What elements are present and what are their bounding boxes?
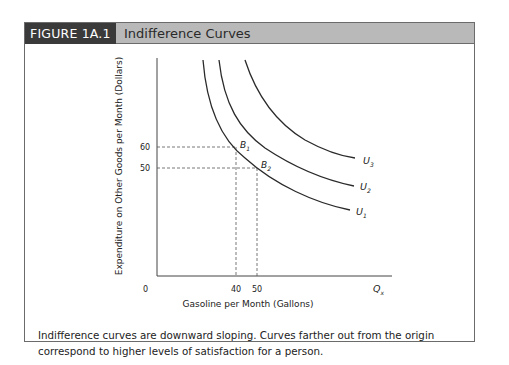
x-axis-end-label: Qx: [373, 283, 384, 296]
figure-caption: Indifference curves are downward sloping…: [38, 327, 478, 359]
curve-u1: [203, 60, 350, 210]
x-tick-40: 40: [231, 285, 241, 294]
curve-u3-label: U3: [363, 155, 374, 168]
y-tick-60: 60: [140, 143, 150, 152]
x-axis-title: Gasoline per Month (Gallons): [182, 299, 313, 309]
x-tick-50: 50: [252, 285, 262, 294]
guide-lines: [157, 147, 257, 276]
indifference-chart: B1 B2 U3 U2 U1 60 50 0 40 50 Qx Gasoline…: [0, 0, 509, 365]
point-b2-label: B2: [261, 160, 271, 172]
y-tick-50: 50: [140, 164, 150, 173]
curve-u3: [245, 60, 355, 158]
curve-u1-label: U1: [356, 206, 367, 219]
curve-u2: [219, 60, 354, 186]
origin-label: 0: [143, 285, 148, 294]
point-b1-label: B1: [240, 140, 250, 152]
curve-u2-label: U2: [360, 181, 371, 194]
y-axis-title: Expenditure on Other Goods per Month (Do…: [114, 57, 124, 275]
